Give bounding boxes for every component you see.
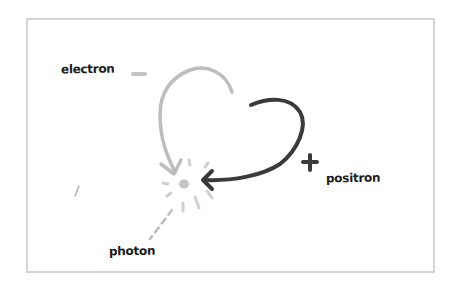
stray-mark xyxy=(75,186,79,196)
annihilation-point xyxy=(179,180,189,189)
positron-label: positron xyxy=(326,171,380,186)
photon-path xyxy=(150,210,172,239)
positron-arrow xyxy=(205,100,303,180)
annihilation-diagram xyxy=(0,0,461,290)
plus-sign-icon xyxy=(303,155,317,170)
electron-arrow xyxy=(160,68,232,172)
electron-label: electron xyxy=(61,62,115,77)
photon-label: photon xyxy=(109,244,155,259)
